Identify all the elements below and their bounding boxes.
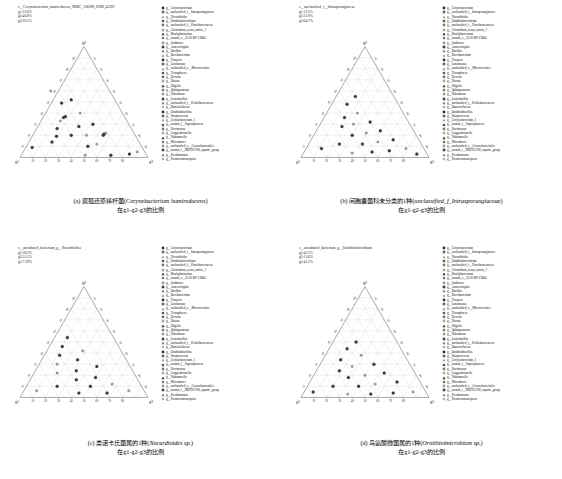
svg-text:10: 10 — [301, 384, 306, 389]
svg-text:90: 90 — [143, 385, 148, 390]
svg-text:10: 10 — [92, 296, 97, 301]
svg-text:20: 20 — [44, 159, 48, 163]
legend-item-label: g__Promicromonospora — [447, 397, 477, 401]
svg-text:50: 50 — [399, 100, 404, 105]
svg-text:60: 60 — [376, 399, 380, 403]
panel-d: s__uncultured_bacterium_g__Ornithinimicr… — [281, 240, 562, 479]
svg-text:30: 30 — [314, 362, 319, 367]
svg-text:80: 80 — [137, 373, 142, 378]
svg-text:50: 50 — [83, 159, 87, 163]
svg-text:90: 90 — [71, 55, 76, 60]
legend-item: g__Promicromonospora — [441, 157, 561, 161]
legend-item-label: g__Promicromonospora — [447, 157, 477, 161]
panel-c-plot: 1020304050607080102030405060708090102030… — [8, 258, 160, 430]
svg-text:10: 10 — [31, 399, 35, 403]
panel-d-legend: g__Corynebacteriumg__unclassified_f__Int… — [441, 246, 561, 432]
panel-a-caption-line2: 在g1-g2-g3的比例 — [0, 205, 281, 214]
svg-text:g3: g3 — [149, 159, 153, 164]
panel-c-caption-species: Nocardioides sp. — [149, 439, 191, 446]
svg-text:10: 10 — [92, 56, 97, 61]
svg-text:70: 70 — [131, 362, 136, 367]
svg-text:60: 60 — [405, 351, 410, 356]
svg-text:90: 90 — [71, 295, 76, 300]
legend-item-label: g__Promicromonospora — [166, 157, 196, 161]
svg-text:50: 50 — [83, 399, 87, 403]
panel-b-caption-species: unclassified_f_Intrasporangiaceae — [414, 197, 500, 204]
svg-text:20: 20 — [99, 307, 104, 312]
svg-text:10: 10 — [312, 399, 316, 403]
svg-text:10: 10 — [312, 159, 316, 163]
panel-c-caption-cn: (c) 类诺卡氏菌属的1种( — [88, 439, 150, 446]
panel-c-caption: (c) 类诺卡氏菌属的1种(Nocardioides sp.) 在g1-g2-g… — [0, 438, 281, 456]
svg-text:50: 50 — [45, 340, 50, 345]
svg-text:30: 30 — [105, 318, 110, 323]
svg-text:30: 30 — [33, 362, 38, 367]
svg-text:g1: g1 — [296, 159, 300, 164]
panel-b-caption: (b) 间胞囊菌科未分类的1种(unclassified_f_Intraspor… — [281, 196, 562, 214]
svg-text:50: 50 — [45, 100, 50, 105]
panel-b-species: s__unclassified_f__Intrasporangiaceae — [299, 5, 355, 10]
panel-a-caption-tail: ) — [205, 197, 207, 204]
legend-item-label: g__Promicromonospora — [166, 397, 196, 401]
svg-text:90: 90 — [143, 145, 148, 150]
panel-b-caption-cn: (b) 间胞囊菌科未分类的1种( — [340, 197, 414, 204]
panel-a-plot: 1020304050607080102030405060708090102030… — [8, 18, 160, 190]
svg-text:70: 70 — [339, 318, 344, 323]
svg-text:70: 70 — [58, 78, 63, 83]
svg-text:10: 10 — [373, 296, 378, 301]
svg-text:80: 80 — [121, 159, 125, 163]
svg-text:40: 40 — [351, 399, 355, 403]
svg-text:70: 70 — [339, 78, 344, 83]
svg-text:40: 40 — [70, 399, 74, 403]
svg-text:10: 10 — [31, 159, 35, 163]
svg-text:10: 10 — [373, 56, 378, 61]
legend-item: g__Promicromonospora — [441, 397, 561, 401]
svg-text:50: 50 — [118, 340, 123, 345]
svg-text:g3: g3 — [430, 159, 434, 164]
legend-marker-icon — [160, 397, 165, 401]
svg-text:60: 60 — [333, 89, 338, 94]
svg-text:80: 80 — [65, 67, 70, 72]
svg-text:70: 70 — [58, 318, 63, 323]
svg-text:50: 50 — [399, 340, 404, 345]
panel-d-caption-species: Ornithinimicrobium sp. — [422, 439, 480, 446]
panel-d-plot: 1020304050607080102030405060708090102030… — [289, 258, 441, 430]
svg-text:30: 30 — [386, 78, 391, 83]
svg-text:g1: g1 — [15, 399, 19, 404]
svg-text:20: 20 — [26, 373, 31, 378]
panel-d-species: s__uncultured_bacterium_g__Ornithinimicr… — [299, 246, 372, 251]
svg-text:60: 60 — [95, 159, 99, 163]
svg-text:50: 50 — [326, 340, 331, 345]
svg-text:20: 20 — [380, 307, 385, 312]
panel-a-caption-species: Corynebacterium humireducens — [126, 197, 205, 204]
panel-b-plot: 1020304050607080102030405060708090102030… — [289, 18, 441, 190]
svg-text:30: 30 — [33, 122, 38, 127]
svg-text:50: 50 — [364, 159, 368, 163]
svg-text:60: 60 — [333, 329, 338, 334]
panel-a-ternary-svg: 1020304050607080102030405060708090102030… — [8, 18, 160, 190]
svg-text:80: 80 — [402, 159, 406, 163]
svg-text:80: 80 — [402, 399, 406, 403]
svg-text:90: 90 — [424, 145, 429, 150]
legend-marker-icon — [441, 157, 446, 161]
panel-a-caption-cn: (a) 腐殖还原棒杆菌( — [74, 197, 126, 204]
panel-a-legend: g__Corynebacteriumg__unclassified_f__Int… — [160, 6, 280, 192]
panel-c-caption-line2: 在g1-g2-g3的比例 — [0, 447, 281, 456]
svg-text:40: 40 — [320, 111, 325, 116]
svg-text:80: 80 — [121, 399, 125, 403]
legend-item: g__Promicromonospora — [160, 397, 280, 401]
svg-text:80: 80 — [418, 373, 423, 378]
svg-text:20: 20 — [325, 159, 329, 163]
panel-c-species: s__uncultured_bacterium_g__Nocardioides — [18, 246, 81, 251]
svg-text:90: 90 — [424, 385, 429, 390]
svg-text:80: 80 — [346, 307, 351, 312]
svg-text:20: 20 — [307, 133, 312, 138]
panel-c-ternary-svg: 1020304050607080102030405060708090102030… — [8, 258, 160, 430]
svg-text:30: 30 — [338, 159, 342, 163]
svg-text:40: 40 — [39, 351, 44, 356]
panel-a: s__Corynebacterium_humireducens_NBRC_106… — [0, 0, 281, 239]
svg-text:30: 30 — [386, 318, 391, 323]
svg-text:40: 40 — [111, 89, 116, 94]
svg-text:70: 70 — [412, 122, 417, 127]
svg-text:40: 40 — [320, 351, 325, 356]
